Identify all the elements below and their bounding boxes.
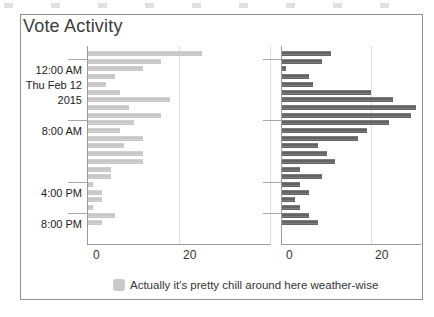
y-tick-mark	[263, 59, 281, 60]
bar[interactable]	[282, 213, 309, 218]
bar[interactable]	[88, 82, 106, 87]
gridline-20-right	[371, 46, 372, 244]
bar[interactable]	[88, 105, 129, 110]
bar[interactable]	[282, 59, 322, 64]
bar[interactable]	[282, 174, 322, 179]
gridline-20-left	[179, 46, 180, 244]
x-tick-right-0: 0	[286, 248, 293, 262]
bar[interactable]	[282, 113, 411, 118]
left-bar-facet	[87, 46, 271, 245]
bar[interactable]	[88, 120, 134, 125]
x-tick-left-0: 0	[93, 248, 100, 262]
vote-activity-panel: Vote Activity 12:00 AMThu Feb 1220158:00…	[20, 14, 423, 300]
y-tick-mark	[263, 182, 281, 183]
y-tick-mark	[263, 120, 281, 121]
bar[interactable]	[282, 128, 367, 133]
bar[interactable]	[282, 82, 313, 87]
bar[interactable]	[282, 90, 371, 95]
bar[interactable]	[282, 182, 300, 187]
y-tick-mark	[263, 213, 281, 214]
y-tick-mark	[68, 120, 87, 121]
bar[interactable]	[282, 51, 331, 56]
bar[interactable]	[282, 136, 358, 141]
bar[interactable]	[88, 197, 102, 202]
bar[interactable]	[88, 90, 120, 95]
right-bar-facet	[281, 46, 421, 245]
bar[interactable]	[282, 74, 309, 79]
bar[interactable]	[88, 51, 202, 56]
bar[interactable]	[88, 113, 161, 118]
bar[interactable]	[88, 205, 93, 210]
y-tick-label: 4:00 PM	[21, 186, 82, 201]
bar[interactable]	[88, 66, 143, 71]
y-tick-mark	[68, 59, 87, 60]
y-tick-mark	[68, 182, 87, 183]
bar[interactable]	[282, 105, 416, 110]
bar[interactable]	[88, 190, 102, 195]
y-tick-mark	[68, 213, 87, 214]
bar[interactable]	[88, 97, 170, 102]
bar[interactable]	[88, 59, 161, 64]
bar[interactable]	[282, 220, 318, 225]
bar[interactable]	[88, 220, 102, 225]
bar[interactable]	[88, 151, 143, 156]
bar[interactable]	[88, 143, 124, 148]
bar[interactable]	[282, 205, 300, 210]
legend-label: Actually it's pretty chill around here w…	[130, 279, 378, 291]
bar[interactable]	[88, 74, 115, 79]
y-tick-label: 8:00 AM	[21, 124, 82, 139]
bar[interactable]	[282, 197, 295, 202]
bar[interactable]	[88, 174, 111, 179]
bar[interactable]	[282, 159, 335, 164]
screenshot-root: Vote Activity 12:00 AMThu Feb 1220158:00…	[0, 0, 434, 317]
bar[interactable]	[282, 97, 393, 102]
bar[interactable]	[88, 167, 111, 172]
bar[interactable]	[282, 66, 286, 71]
legend[interactable]: Actually it's pretty chill around here w…	[113, 279, 378, 291]
y-tick-label: 8:00 PM	[21, 217, 82, 232]
x-tick-left-20: 20	[183, 248, 196, 262]
bar[interactable]	[282, 167, 300, 172]
x-tick-right-20: 20	[375, 248, 388, 262]
bar[interactable]	[88, 136, 143, 141]
time-axis-labels: 12:00 AMThu Feb 1220158:00 AM4:00 PM8:00…	[21, 15, 82, 255]
bar[interactable]	[88, 213, 115, 218]
bar[interactable]	[88, 159, 143, 164]
legend-swatch[interactable]	[113, 279, 125, 291]
y-tick-label: 12:00 AMThu Feb 122015	[21, 63, 82, 108]
bar[interactable]	[88, 128, 120, 133]
bar[interactable]	[282, 143, 318, 148]
bar[interactable]	[282, 151, 327, 156]
cropped-text-fragments	[4, 3, 424, 8]
bar[interactable]	[282, 190, 309, 195]
bar[interactable]	[88, 182, 93, 187]
bar[interactable]	[282, 120, 389, 125]
